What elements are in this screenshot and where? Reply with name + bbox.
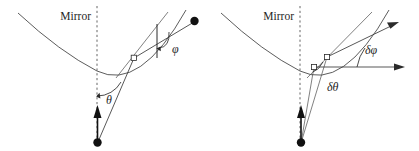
tangent-extension-line	[116, 12, 168, 78]
image-point-dot	[190, 17, 198, 25]
mirror-label: Mirror	[60, 10, 91, 22]
reflection-point-marker	[131, 55, 136, 60]
source-arrow-head	[297, 105, 305, 118]
reflected-ray-2-arrowhead	[387, 22, 399, 29]
phi-label: φ	[172, 42, 179, 56]
source-point-dot	[93, 138, 101, 146]
reflected-ray	[134, 22, 194, 58]
source-point-dot	[297, 138, 305, 146]
figure-root: Mirror θ φ Mirror	[0, 0, 419, 151]
reflection-point-marker-1	[311, 64, 316, 69]
theta-label: θ	[106, 93, 112, 107]
source-arrow-head	[94, 105, 102, 118]
mirror-label: Mirror	[263, 10, 294, 22]
delta-phi-label: δφ	[365, 43, 378, 57]
left-panel-diagram: Mirror θ φ	[0, 0, 209, 151]
delta-theta-label: δθ	[327, 80, 339, 94]
incident-ray-1	[301, 67, 314, 143]
reflection-point-marker-2	[324, 54, 329, 59]
parabolic-mirror-curve	[221, 10, 389, 75]
incident-ray	[98, 58, 135, 143]
reflected-ray-1-arrowhead	[394, 64, 405, 71]
parabolic-mirror-curve	[18, 10, 186, 75]
right-panel-diagram: Mirror δθ δφ	[209, 0, 419, 151]
